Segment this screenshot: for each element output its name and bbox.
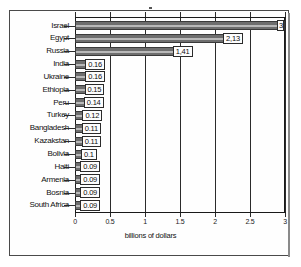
bar-value-label: 0.16 <box>85 71 105 82</box>
bar-row: Ethiopia0.15 <box>0 85 301 98</box>
category-leader-line <box>64 193 75 194</box>
category-leader-line <box>64 26 75 27</box>
tick-mark-bottom <box>180 213 181 217</box>
bar <box>75 34 224 43</box>
bar-row: Kazakstan0.11 <box>0 136 301 149</box>
tick-mark-top <box>145 12 146 17</box>
tick-mark-bottom <box>110 213 111 217</box>
category-leader-line <box>64 103 75 104</box>
bar-value-label: 0.09 <box>80 200 100 211</box>
bar-row: Egypt2,13 <box>0 33 301 46</box>
tick-mark-bottom <box>145 213 146 217</box>
bar-row: Russia1,41 <box>0 46 301 59</box>
bar-value-label: 0.09 <box>80 161 100 172</box>
x-tick-label: 1.5 <box>175 218 184 225</box>
tick-mark-top <box>75 12 76 17</box>
tick-mark-top <box>250 12 251 17</box>
bar-value-label: 0.1 <box>81 149 97 160</box>
x-axis-label: billions of dollars <box>0 231 301 240</box>
bar-value-label: 1,41 <box>173 46 193 57</box>
category-leader-line <box>64 38 75 39</box>
x-tick-label: 3 <box>283 218 287 225</box>
bar <box>75 21 285 30</box>
tick-mark-bottom <box>285 213 286 217</box>
bar-row: Bosnia0.09 <box>0 188 301 201</box>
category-leader-line <box>64 205 75 206</box>
bar-row: Armenia0.09 <box>0 175 301 188</box>
bar-value-label: 0.11 <box>82 123 101 134</box>
category-leader-line <box>64 128 75 129</box>
bar-value-label: 0.09 <box>80 174 100 185</box>
bar-value-label: 0.09 <box>80 187 100 198</box>
bar-value-label: 2,13 <box>223 33 243 44</box>
x-tick-label: 2 <box>213 218 217 225</box>
bar-row: Ukraine0.16 <box>0 72 301 85</box>
bar-row: Peru0.14 <box>0 98 301 111</box>
x-tick-label: 0 <box>73 218 77 225</box>
bar-value-label: 0.16 <box>85 59 105 70</box>
bar-value-label: 0.12 <box>82 110 102 121</box>
chart-page: 00.511.522.53 Israel3Egypt2,13Russia1,41… <box>0 0 301 267</box>
tick-mark-top <box>180 12 181 17</box>
bar <box>75 47 174 56</box>
bar-row: Haiti0.09 <box>0 162 301 175</box>
x-tick-label: 1 <box>143 218 147 225</box>
category-leader-line <box>64 64 75 65</box>
bar-row: South Africa0.09 <box>0 200 301 213</box>
tick-mark-bottom <box>75 213 76 217</box>
category-leader-line <box>64 167 75 168</box>
category-leader-line <box>64 141 75 142</box>
bar-value-label: 0.15 <box>85 84 105 95</box>
bar-row: Turkey0.12 <box>0 110 301 123</box>
tick-mark-top <box>215 12 216 17</box>
bar-value-label: 0.14 <box>84 97 104 108</box>
tick-mark-bottom <box>215 213 216 217</box>
bar-row: Bolivia0.1 <box>0 149 301 162</box>
tick-mark-top <box>285 12 286 17</box>
category-leader-line <box>64 115 75 116</box>
bar-row: India0.16 <box>0 59 301 72</box>
bar-value-label: 0.11 <box>82 136 101 147</box>
tick-mark-bottom <box>250 213 251 217</box>
x-tick-label: 2.5 <box>245 218 254 225</box>
x-tick-label: 0.5 <box>105 218 114 225</box>
category-leader-line <box>64 90 75 91</box>
category-leader-line <box>64 77 75 78</box>
category-leader-line <box>64 51 75 52</box>
bar-value-label: 3 <box>277 20 284 31</box>
category-leader-line <box>64 180 75 181</box>
top-center-mark <box>149 7 152 9</box>
tick-mark-top <box>110 12 111 17</box>
bar-row: Bangladesh0.11 <box>0 123 301 136</box>
category-leader-line <box>64 154 75 155</box>
bar-row: Israel3 <box>0 21 301 34</box>
